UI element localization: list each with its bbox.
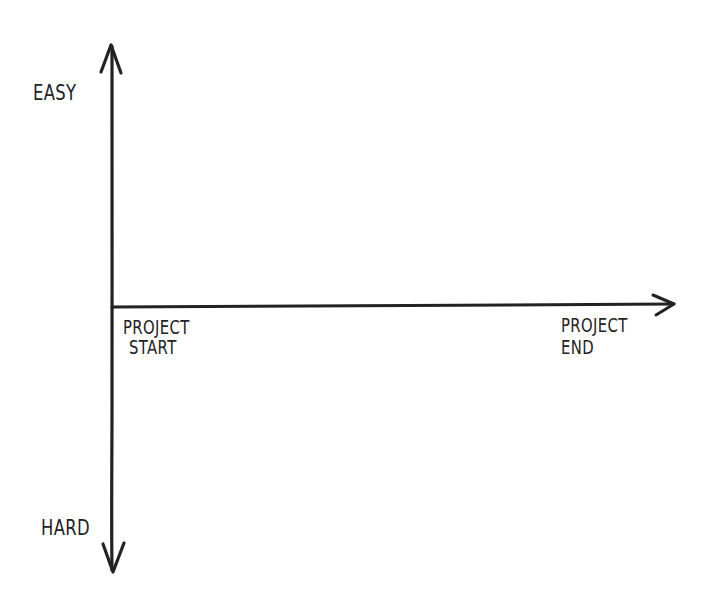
horizontal-axis-line <box>112 304 674 307</box>
project-start-label-line2: START <box>129 338 177 357</box>
project-end-label-line1: PROJECT <box>561 316 628 335</box>
hard-label: HARD <box>41 518 90 538</box>
project-start-label-line1: PROJECT <box>123 318 190 337</box>
down-arrow-icon <box>103 543 124 572</box>
project-end-label-line2: END <box>561 338 594 357</box>
axes-diagram <box>0 0 711 610</box>
easy-label: EASY <box>33 83 77 103</box>
